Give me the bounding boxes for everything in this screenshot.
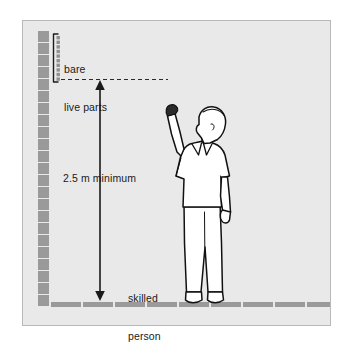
person-hand-right <box>220 210 230 223</box>
safety-clearance-diagram: bare live parts 2.5 m minimum skilled pe… <box>0 0 354 342</box>
diagram-canvas <box>0 0 354 342</box>
vertical-brick-wall <box>38 31 49 306</box>
person-fist <box>166 105 178 116</box>
person-shoe-left <box>186 292 203 303</box>
person-shoe-right <box>208 292 224 303</box>
